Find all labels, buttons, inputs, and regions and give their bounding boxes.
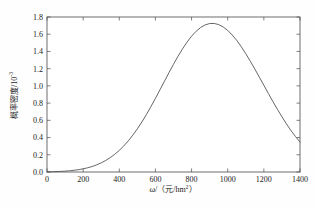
x-tick-label: 1400 [292,175,308,184]
y-tick-label: 0.0 [33,168,43,177]
y-tick-label: 0.4 [33,133,43,142]
y-tick-label: 0.2 [33,151,43,160]
chart-figure: 0.00.20.40.60.81.01.21.41.61.8 020040060… [0,0,316,209]
x-tick-label: 1200 [256,175,272,184]
x-tick-label: 0 [45,175,49,184]
y-tick-label: 1.4 [33,47,43,56]
y-tick-label: 0.6 [33,116,43,125]
y-tick-label: 0.8 [33,99,43,108]
y-tick-label: 1.2 [33,65,43,74]
x-tick-label: 400 [113,175,125,184]
x-tick-label: 800 [186,175,198,184]
plot-box [47,17,300,172]
plot-canvas: 0.00.20.40.60.81.01.21.41.61.8 020040060… [0,0,316,209]
x-tick-label: 200 [77,175,89,184]
y-tick-label: 1.0 [33,82,43,91]
x-axis-label: ω/（元/hm2） [149,184,196,194]
x-tick-label: 600 [149,175,161,184]
y-tick-label: 1.8 [33,13,43,22]
x-tick-label: 1000 [220,175,236,184]
y-tick-label: 1.6 [33,30,43,39]
